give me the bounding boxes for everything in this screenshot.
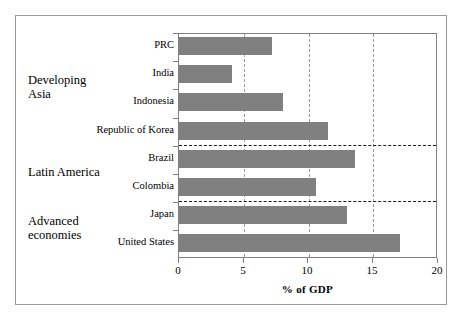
bar-prc <box>179 37 272 55</box>
x-tick-label-15: 15 <box>367 264 378 276</box>
x-tick-20 <box>437 258 438 263</box>
category-label-india: India <box>4 67 174 79</box>
bar-colombia <box>179 178 316 196</box>
x-axis-title: % of GDP <box>178 283 437 295</box>
bar-japan <box>179 206 347 224</box>
x-tick-0 <box>178 258 179 263</box>
bar-brazil <box>179 150 355 168</box>
x-tick-label-5: 5 <box>240 264 246 276</box>
x-tick-label-20: 20 <box>432 264 443 276</box>
bar-republic-of-korea <box>179 122 328 140</box>
chart-figure: Developing Asia Latin America Advanced e… <box>0 0 462 324</box>
x-tick-label-10: 10 <box>302 264 313 276</box>
x-tick-15 <box>372 258 373 263</box>
bar-india <box>179 65 232 83</box>
x-tick-label-0: 0 <box>175 264 181 276</box>
category-label-japan: Japan <box>4 208 174 220</box>
category-label-prc: PRC <box>4 39 174 51</box>
group-separator-2 <box>179 201 436 202</box>
x-tick-10 <box>307 258 308 263</box>
plot-area <box>178 33 437 258</box>
category-label-colombia: Colombia <box>4 180 174 192</box>
bar-united-states <box>179 234 400 252</box>
bar-indonesia <box>179 93 283 111</box>
group-separator-1 <box>179 145 436 146</box>
category-label-brazil: Brazil <box>4 152 174 164</box>
category-label-indonesia: Indonesia <box>4 95 174 107</box>
x-tick-5 <box>243 258 244 263</box>
category-label-republic-of-korea: Republic of Korea <box>4 124 174 136</box>
category-label-united-states: United States <box>4 236 174 248</box>
category-axis-labels: PRC India Indonesia Republic of Korea Br… <box>0 33 174 258</box>
